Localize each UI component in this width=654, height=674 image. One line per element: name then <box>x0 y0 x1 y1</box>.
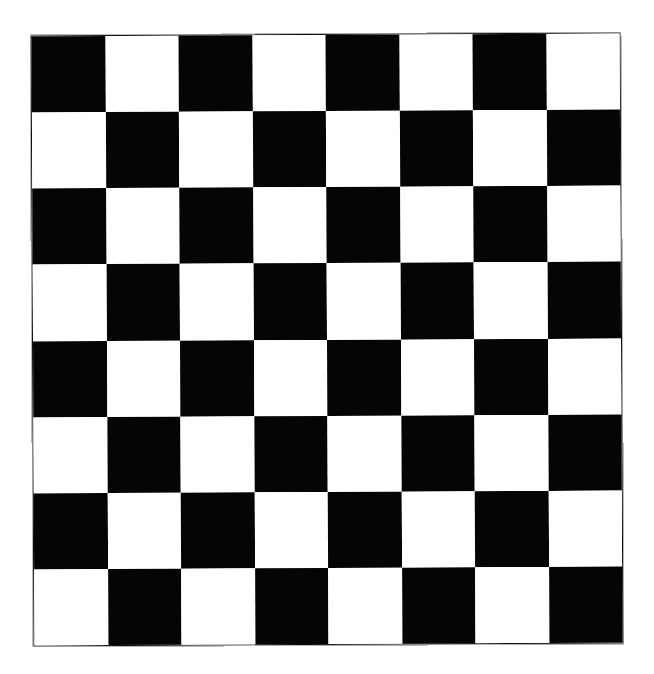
board-square <box>547 262 621 338</box>
board-square <box>327 339 401 415</box>
board-square <box>255 568 329 644</box>
board-square <box>254 340 328 416</box>
board-square <box>548 414 622 490</box>
board-square <box>179 188 253 264</box>
board-square <box>105 36 179 112</box>
board-square <box>399 34 473 110</box>
board-square <box>179 35 253 111</box>
board-square <box>328 568 402 644</box>
board-square <box>254 492 328 568</box>
board-square <box>473 34 547 110</box>
board-square <box>107 416 181 492</box>
board-square <box>253 187 327 263</box>
checkerboard-wrapper <box>31 33 624 647</box>
board-square <box>32 36 106 112</box>
board-square <box>546 110 620 186</box>
board-square <box>327 263 401 339</box>
board-square <box>547 186 621 262</box>
board-square <box>474 415 548 491</box>
board-square <box>106 188 180 264</box>
board-square <box>474 262 548 338</box>
board-square <box>107 340 181 416</box>
board-square <box>549 566 623 642</box>
board-square <box>474 338 548 414</box>
board-square <box>181 492 255 568</box>
board-square <box>401 415 475 491</box>
board-square <box>180 264 254 340</box>
board-square <box>106 264 180 340</box>
board-square <box>254 416 328 492</box>
board-square <box>253 263 327 339</box>
board-square <box>546 34 620 110</box>
board-square <box>326 111 400 187</box>
board-square <box>179 111 253 187</box>
board-square <box>252 35 326 111</box>
board-square <box>475 491 549 567</box>
board-square <box>400 339 474 415</box>
board-square <box>327 415 401 491</box>
board-square <box>33 341 107 417</box>
board-square <box>475 567 549 643</box>
board-square <box>548 490 622 566</box>
board-square <box>32 188 106 264</box>
board-square <box>400 187 474 263</box>
board-square <box>34 493 108 569</box>
board-square <box>33 417 107 493</box>
board-square <box>473 186 547 262</box>
board-square <box>107 492 181 568</box>
board-square <box>547 338 621 414</box>
board-square <box>34 569 108 645</box>
board-square <box>105 112 179 188</box>
checkerboard <box>31 33 624 647</box>
board-square <box>33 264 107 340</box>
board-square <box>181 568 255 644</box>
board-square <box>326 187 400 263</box>
board-square <box>252 111 326 187</box>
board-square <box>108 569 182 645</box>
board-square <box>326 35 400 111</box>
board-square <box>32 112 106 188</box>
board-square <box>400 263 474 339</box>
board-square <box>180 340 254 416</box>
board-square <box>401 491 475 567</box>
board-square <box>399 110 473 186</box>
board-square <box>473 110 547 186</box>
board-square <box>402 567 476 643</box>
page-canvas <box>0 0 654 674</box>
board-square <box>328 491 402 567</box>
board-square <box>180 416 254 492</box>
